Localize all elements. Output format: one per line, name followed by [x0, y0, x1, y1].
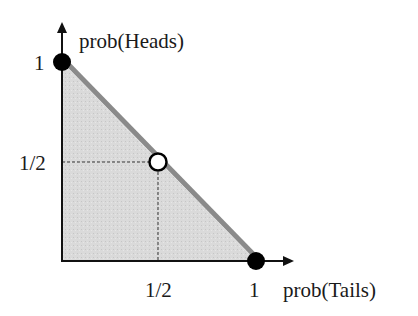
- y-axis-label: prob(Heads): [79, 29, 184, 53]
- y-tick-1: 1: [34, 51, 45, 75]
- y-axis-arrow-icon: [57, 22, 67, 33]
- x-tick-1: 1: [249, 278, 260, 302]
- point-tails-certain: [247, 252, 265, 270]
- y-tick-half: 1/2: [19, 151, 46, 175]
- x-axis-label: prob(Tails): [283, 278, 376, 302]
- point-heads-certain: [53, 53, 71, 71]
- x-axis-arrow-icon: [283, 256, 294, 266]
- x-tick-half: 1/2: [145, 278, 172, 302]
- probability-simplex-diagram: prob(Heads) 1 1/2 1/2 1 prob(Tails): [0, 0, 418, 316]
- point-fair-coin: [150, 154, 167, 171]
